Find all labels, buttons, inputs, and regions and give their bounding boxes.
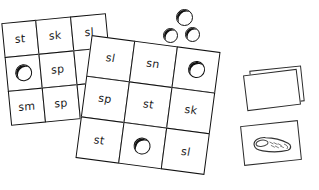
cell-label: st (142, 99, 155, 111)
cell-label: sl (180, 146, 191, 158)
cell-label: st (93, 134, 106, 146)
slipper-picture-card[interactable] (240, 120, 302, 166)
counter-token[interactable] (176, 9, 193, 26)
grid-cell[interactable]: st (75, 116, 124, 164)
grid-cell[interactable] (4, 54, 43, 93)
worksheet-scene: Phonics blend bingo boards with counters… (0, 0, 319, 190)
grid-cell[interactable] (172, 46, 221, 94)
right-bingo-grid[interactable]: sl sn sp st sk st sl (75, 35, 220, 175)
cell-label: sp (97, 93, 112, 106)
cell-label: st (15, 33, 26, 45)
counter-token[interactable] (14, 64, 33, 83)
slipper-icon (249, 130, 295, 158)
cell-label: sk (48, 29, 61, 41)
grid-cell[interactable]: sk (166, 87, 215, 135)
cell-label: sp (54, 98, 68, 110)
cell-label: sl (105, 52, 116, 64)
grid-cell[interactable]: st (1, 19, 40, 58)
grid-cell[interactable]: sp (80, 75, 129, 123)
blank-card-stack[interactable] (245, 68, 305, 110)
grid-cell[interactable]: sl (86, 34, 135, 82)
grid-cell[interactable]: sk (35, 16, 74, 55)
grid-cell[interactable]: sp (42, 84, 81, 123)
cell-label: sn (146, 58, 161, 71)
grid-cell[interactable]: sp (39, 50, 78, 89)
grid-cell[interactable] (118, 122, 167, 170)
grid-cell[interactable]: sn (129, 40, 178, 88)
grid-cell[interactable]: sm (7, 88, 46, 127)
counter-token[interactable] (185, 27, 200, 42)
card-front[interactable] (243, 69, 301, 111)
grid-cell[interactable]: st (123, 81, 172, 129)
cell-label: sm (18, 101, 35, 114)
cell-label: sp (51, 63, 65, 75)
grid-cell[interactable]: sl (161, 128, 210, 176)
counter-token[interactable] (187, 60, 206, 79)
counter-token[interactable] (163, 28, 178, 43)
counter-token[interactable] (133, 136, 152, 155)
cell-label: sk (184, 104, 199, 116)
